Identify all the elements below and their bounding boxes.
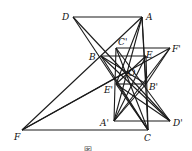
segment-E1-D1 <box>116 84 170 121</box>
point-label-C1: C' <box>118 37 127 47</box>
point-labels: DAC'F'BEOE'B'A'D'FC <box>13 12 183 143</box>
point-label-F1: F' <box>171 44 181 54</box>
point-label-C: C <box>144 133 151 143</box>
point-label-E1: E' <box>103 85 113 95</box>
line-segments <box>22 17 170 130</box>
point-label-D: D <box>61 12 69 22</box>
point-label-B: B <box>88 52 96 62</box>
point-label-E: E <box>145 50 153 60</box>
point-label-B1: B' <box>148 82 158 92</box>
point-label-A1: A' <box>99 118 109 128</box>
point-label-A: A <box>145 12 153 22</box>
point-label-F: F <box>13 132 21 142</box>
figure-caption: 图 <box>84 146 92 151</box>
geometry-diagram: DAC'F'BEOE'B'A'D'FC 图 <box>0 0 192 151</box>
point-label-O: O <box>128 68 136 78</box>
point-label-D1: D' <box>172 118 183 128</box>
